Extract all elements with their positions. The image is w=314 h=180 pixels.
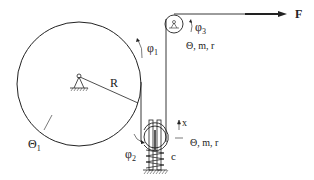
label-x: x	[182, 117, 187, 128]
force-arrow-head-icon	[278, 11, 287, 17]
label-F: F	[295, 7, 302, 21]
label-theta1: Θ1	[28, 137, 41, 153]
phi1-rotation-arrow-icon	[138, 40, 142, 58]
theta1-pointer	[44, 115, 52, 130]
label-c: c	[171, 150, 176, 162]
label-upper-pulley-params: Θ, m, r	[186, 40, 215, 51]
radius-line	[80, 77, 138, 103]
label-R: R	[110, 76, 118, 90]
upper-pulley	[165, 15, 183, 33]
lower-pulley	[144, 123, 168, 151]
drum-pivot-support-icon	[70, 74, 88, 91]
ground-support-icon	[143, 170, 168, 174]
mechanics-diagram: R Θ1 φ1 φ2 φ3 Θ, m, r Θ, m, r x c F	[0, 0, 314, 180]
label-phi1: φ1	[147, 41, 158, 57]
label-phi2: φ2	[125, 147, 136, 163]
label-lower-pulley-params: Θ, m, r	[190, 137, 219, 148]
upper-pulley-pivot-icon	[169, 21, 179, 29]
label-phi3: φ3	[195, 20, 206, 36]
large-drum	[17, 22, 141, 146]
